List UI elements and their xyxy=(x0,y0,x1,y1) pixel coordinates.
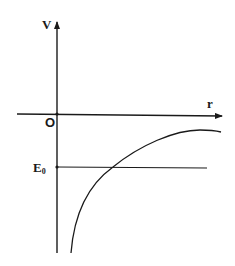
potential-curve xyxy=(71,130,221,253)
potential-energy-diagram: V r O E0 xyxy=(0,0,235,266)
energy-level-line xyxy=(57,167,207,168)
energy-level-label: E0 xyxy=(33,160,46,176)
energy-level-tick xyxy=(55,165,58,168)
energy-level-label-sub: 0 xyxy=(42,167,46,176)
origin-label: O xyxy=(45,115,55,130)
energy-level-label-main: E xyxy=(33,160,42,175)
origin-point xyxy=(55,112,58,115)
x-axis-label: r xyxy=(207,96,213,111)
y-axis-label: V xyxy=(42,17,52,32)
